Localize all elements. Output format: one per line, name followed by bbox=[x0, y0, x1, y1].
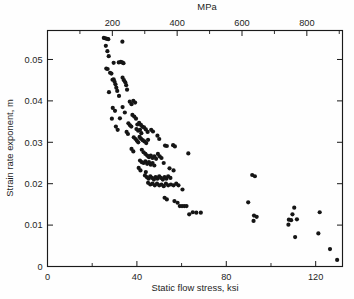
data-point bbox=[171, 168, 175, 172]
data-point bbox=[146, 138, 150, 142]
y-tick-label: 0.02 bbox=[25, 179, 43, 189]
data-point bbox=[186, 151, 190, 155]
data-point bbox=[120, 40, 124, 44]
data-point bbox=[255, 215, 259, 219]
data-point bbox=[120, 105, 124, 109]
y-tick-label: 0.04 bbox=[25, 96, 43, 106]
data-point bbox=[295, 217, 299, 221]
left-axis-ticks bbox=[48, 59, 54, 266]
top-axis-title: MPa bbox=[197, 1, 217, 12]
chart-canvas: 04080120 00.010.020.030.040.05 200400600… bbox=[0, 0, 354, 299]
data-point bbox=[112, 61, 116, 65]
data-point bbox=[251, 219, 255, 223]
data-point bbox=[176, 183, 180, 187]
data-point bbox=[289, 218, 293, 222]
data-point bbox=[129, 124, 133, 128]
data-point bbox=[162, 161, 166, 165]
data-point bbox=[116, 128, 120, 132]
data-point bbox=[146, 130, 150, 134]
data-point bbox=[199, 211, 203, 215]
data-point bbox=[121, 61, 125, 65]
data-point bbox=[118, 116, 122, 120]
top-tick-label: 400 bbox=[169, 18, 184, 28]
x-tick-label: 0 bbox=[45, 272, 50, 282]
data-point bbox=[167, 166, 171, 170]
top-tick-label: 200 bbox=[105, 18, 120, 28]
data-point bbox=[106, 67, 110, 71]
data-point bbox=[105, 49, 109, 53]
data-point bbox=[107, 90, 111, 94]
y-tick-label: 0.05 bbox=[25, 55, 43, 65]
data-point bbox=[191, 210, 195, 214]
x-tick-label: 120 bbox=[308, 272, 323, 282]
data-point bbox=[106, 37, 110, 41]
x-axis-title: Static flow stress, ksi bbox=[152, 282, 239, 293]
data-point bbox=[165, 197, 169, 201]
data-point bbox=[253, 174, 257, 178]
data-point bbox=[290, 212, 294, 216]
data-point bbox=[139, 131, 143, 135]
data-point bbox=[136, 140, 140, 144]
data-point bbox=[107, 54, 111, 58]
top-tick-label: 800 bbox=[299, 18, 314, 28]
data-point bbox=[328, 247, 332, 251]
data-point bbox=[138, 168, 142, 172]
x-tick-label: 40 bbox=[132, 272, 142, 282]
data-point bbox=[125, 88, 129, 92]
y-tick-label: 0.01 bbox=[25, 220, 43, 230]
top-axis-tick-labels: 200400600800 bbox=[105, 18, 315, 28]
data-point bbox=[184, 204, 188, 208]
data-point bbox=[335, 258, 339, 262]
left-axis-tick-labels: 00.010.020.030.040.05 bbox=[25, 55, 43, 272]
top-tick-label: 600 bbox=[234, 18, 249, 28]
data-point bbox=[123, 110, 127, 114]
data-point bbox=[318, 210, 322, 214]
data-point bbox=[246, 200, 250, 204]
data-point bbox=[194, 211, 198, 215]
data-point bbox=[134, 117, 138, 121]
data-point bbox=[115, 89, 119, 93]
y-tick-label: 0 bbox=[37, 262, 42, 272]
data-point bbox=[126, 132, 130, 136]
data-point bbox=[117, 94, 121, 98]
data-point bbox=[187, 212, 191, 216]
y-tick-label: 0.03 bbox=[25, 138, 43, 148]
data-point bbox=[165, 144, 169, 148]
data-point bbox=[152, 163, 156, 167]
data-point bbox=[173, 144, 177, 148]
bottom-axis-ticks bbox=[48, 261, 316, 267]
data-point bbox=[293, 235, 297, 239]
data-point bbox=[292, 206, 296, 210]
data-point bbox=[113, 109, 117, 113]
top-axis-ticks bbox=[80, 31, 339, 37]
x-tick-label: 80 bbox=[221, 272, 231, 282]
y-axis-title: Strain rate exponent, m bbox=[4, 99, 15, 197]
data-point bbox=[157, 137, 161, 141]
data-point bbox=[133, 100, 137, 104]
data-point bbox=[286, 223, 290, 227]
scatter-plot-figure: 04080120 00.010.020.030.040.05 200400600… bbox=[0, 0, 354, 299]
data-point bbox=[168, 176, 172, 180]
data-point bbox=[110, 117, 114, 121]
plot-frame bbox=[48, 31, 343, 267]
data-point bbox=[180, 187, 184, 191]
data-point bbox=[159, 156, 163, 160]
data-point bbox=[124, 83, 128, 87]
data-point-series bbox=[102, 36, 340, 262]
data-point bbox=[154, 157, 158, 161]
data-point bbox=[131, 149, 135, 153]
data-point bbox=[316, 231, 320, 235]
data-point bbox=[104, 44, 108, 48]
right-axis-ticks bbox=[337, 59, 343, 266]
data-point bbox=[109, 71, 113, 75]
bottom-axis-tick-labels: 04080120 bbox=[45, 272, 323, 282]
data-point bbox=[151, 129, 155, 133]
